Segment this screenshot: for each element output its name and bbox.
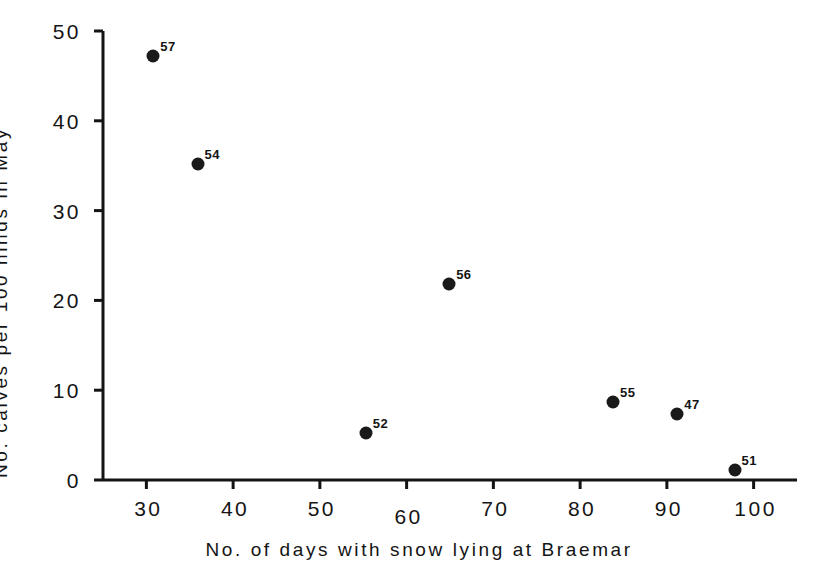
data-point[interactable] bbox=[147, 50, 160, 63]
x-axis-tick-label: 30 bbox=[134, 498, 162, 519]
x-axis-tick-label: 80 bbox=[568, 498, 596, 519]
y-axis-title: No. calves per 100 hinds in May bbox=[0, 127, 10, 478]
scatter-chart: 01020304050 30405060708090100 5754565255… bbox=[0, 0, 821, 585]
data-point-label: 54 bbox=[205, 148, 220, 161]
y-axis-tick-label: 0 bbox=[0, 470, 81, 491]
data-point[interactable] bbox=[191, 157, 204, 170]
data-point-label: 47 bbox=[684, 398, 699, 411]
data-point-label: 51 bbox=[742, 454, 757, 467]
x-axis-tick-label: 60 bbox=[394, 506, 422, 527]
x-axis-tick-label: 100 bbox=[734, 498, 777, 519]
x-axis-tick-label: 90 bbox=[655, 498, 683, 519]
y-axis-tick-label: 50 bbox=[0, 21, 81, 42]
y-axis-tick-label: 20 bbox=[0, 290, 81, 311]
data-point[interactable] bbox=[443, 278, 456, 291]
data-point[interactable] bbox=[728, 464, 741, 477]
y-axis-tick-label: 10 bbox=[0, 380, 81, 401]
x-axis-title: No. of days with snow lying at Braemar bbox=[205, 540, 632, 559]
data-point[interactable] bbox=[671, 408, 684, 421]
data-point[interactable] bbox=[359, 427, 372, 440]
data-point-label: 57 bbox=[160, 40, 175, 53]
y-axis-tick-label: 30 bbox=[0, 200, 81, 221]
data-point-label: 55 bbox=[620, 386, 635, 399]
x-axis-tick-label: 40 bbox=[221, 498, 249, 519]
axis-lines bbox=[103, 31, 797, 480]
data-point[interactable] bbox=[607, 395, 620, 408]
y-axis-tick-label: 40 bbox=[0, 110, 81, 131]
x-axis-tick-label: 70 bbox=[481, 498, 509, 519]
plot-axes-svg bbox=[0, 0, 821, 585]
data-point-label: 56 bbox=[456, 268, 471, 281]
data-point-label: 52 bbox=[373, 417, 388, 430]
x-axis-tick-label: 50 bbox=[308, 498, 336, 519]
